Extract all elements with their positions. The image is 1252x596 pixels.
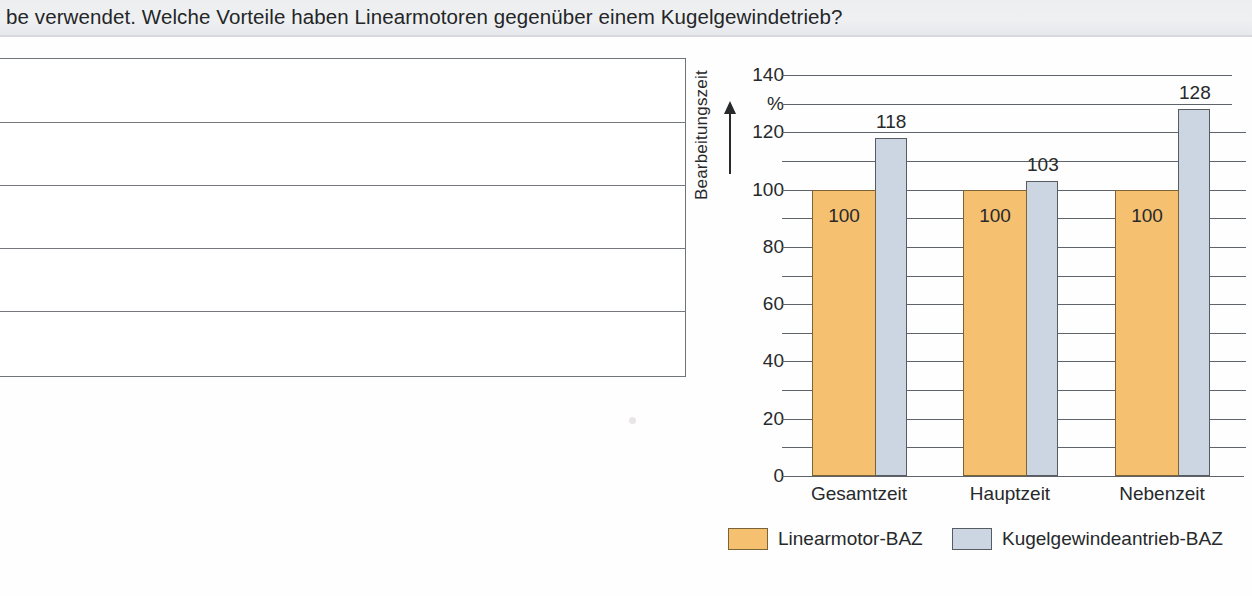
y-tick-label: 0 xyxy=(736,465,784,487)
bar-value-label: 118 xyxy=(876,111,906,133)
chart-legend: Linearmotor-BAZ Kugelgewindeantrieb-BAZ xyxy=(728,528,1252,558)
scanned-textbook-page: be verwendet. Welche Vorteile haben Line… xyxy=(0,0,1252,596)
bar-value-label: 100 xyxy=(1116,205,1178,227)
y-tick-mark xyxy=(782,190,801,191)
y-tick-mark-right xyxy=(1224,419,1246,420)
y-tick-mark-right xyxy=(1224,132,1246,133)
y-tick-mark xyxy=(782,419,801,420)
y-tick-mark-right xyxy=(1224,161,1246,162)
legend-swatch-icon xyxy=(952,528,992,550)
category-label-hauptzeit: Hauptzeit xyxy=(950,483,1070,505)
y-tick-label: 80 xyxy=(736,236,784,258)
bar-linearmotor-gesamtzeit: 100 xyxy=(812,190,876,476)
answer-rule xyxy=(0,122,686,123)
gridline-130 xyxy=(795,104,1232,105)
y-axis-unit-label: % xyxy=(736,93,784,115)
y-tick-mark-right xyxy=(1224,247,1246,248)
y-tick-mark xyxy=(782,132,801,133)
y-tick-mark xyxy=(782,333,801,334)
bar-kugelgewinde-gesamtzeit: 118 xyxy=(875,138,907,476)
legend-label: Kugelgewindeantrieb-BAZ xyxy=(1002,528,1223,550)
bar-kugelgewinde-hauptzeit: 103 xyxy=(1026,181,1058,476)
y-tick-label: 140 xyxy=(736,64,784,86)
y-tick-label: 40 xyxy=(736,350,784,372)
legend-item-kugelgewinde: Kugelgewindeantrieb-BAZ xyxy=(952,528,1223,550)
scan-artifact xyxy=(629,417,636,424)
category-label-nebenzeit: Nebenzeit xyxy=(1102,483,1222,505)
y-tick-mark-right xyxy=(1224,276,1246,277)
legend-swatch-icon xyxy=(728,528,768,550)
gridline-140 xyxy=(795,75,1232,76)
legend-label: Linearmotor-BAZ xyxy=(778,528,923,550)
y-tick-mark-right xyxy=(1224,390,1246,391)
y-tick-label: 100 xyxy=(736,179,784,201)
bar-chart: Bearbeitungszeit 140 % 120 100 80 60 40 … xyxy=(700,50,1252,570)
bar-kugelgewinde-nebenzeit: 128 xyxy=(1178,109,1210,476)
plot-area: 118 100 103 100 128 100 Gesamtzeit Haupt… xyxy=(795,75,1232,476)
y-tick-mark xyxy=(782,247,801,248)
bar-value-label: 103 xyxy=(1027,154,1057,176)
bar-value-label: 128 xyxy=(1179,82,1209,104)
y-tick-mark xyxy=(782,218,801,219)
y-tick-label: 60 xyxy=(736,293,784,315)
category-label-gesamtzeit: Gesamtzeit xyxy=(799,483,919,505)
answer-rule xyxy=(0,185,686,186)
answer-rule xyxy=(0,311,686,312)
bar-value-label: 100 xyxy=(964,205,1026,227)
y-tick-mark xyxy=(782,361,801,362)
y-axis-tick-labels: 140 % 120 100 80 60 40 20 0 xyxy=(722,75,784,476)
y-tick-mark xyxy=(782,390,801,391)
y-tick-mark xyxy=(782,304,801,305)
y-tick-mark-right xyxy=(1224,190,1246,191)
bar-value-label: 100 xyxy=(813,205,875,227)
y-tick-label: 120 xyxy=(736,121,784,143)
y-tick-mark-right xyxy=(1224,218,1246,219)
answer-rule xyxy=(0,248,686,249)
y-tick-mark-right xyxy=(1224,447,1246,448)
y-tick-mark xyxy=(782,104,801,105)
y-tick-mark xyxy=(782,161,801,162)
gridline-120 xyxy=(795,132,1232,133)
bar-linearmotor-nebenzeit: 100 xyxy=(1115,190,1179,476)
legend-item-linearmotor: Linearmotor-BAZ xyxy=(728,528,923,550)
y-tick-mark-right xyxy=(1224,304,1246,305)
y-tick-mark xyxy=(782,447,801,448)
question-text: be verwendet. Welche Vorteile haben Line… xyxy=(6,2,1246,32)
gridline-110 xyxy=(795,161,1232,162)
y-tick-mark xyxy=(782,276,801,277)
bar-linearmotor-hauptzeit: 100 xyxy=(963,190,1027,476)
y-tick-mark xyxy=(782,75,801,76)
y-tick-mark-right xyxy=(1224,361,1246,362)
y-axis-title: Bearbeitungszeit xyxy=(692,70,712,200)
x-axis-baseline xyxy=(782,476,1244,477)
page-header-rule xyxy=(0,35,1252,37)
y-tick-label: 20 xyxy=(736,408,784,430)
y-tick-mark-right xyxy=(1224,333,1246,334)
answer-lines-box xyxy=(0,58,686,377)
